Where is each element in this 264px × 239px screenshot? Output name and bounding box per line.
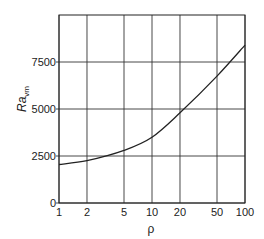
y-axis-tick-labels: 0250050007500 [32,56,56,209]
x-tick-label: 2 [84,206,90,218]
x-tick-label: 1 [56,206,62,218]
y-tick-label: 5000 [32,103,56,115]
y-tick-label: 7500 [32,56,56,68]
x-tick-label: 50 [211,206,223,218]
x-axis-title: ρ [148,222,155,236]
grid-lines [56,15,245,203]
x-tick-label: 100 [236,206,254,218]
x-tick-label: 20 [174,206,186,218]
y-tick-label: 0 [50,197,56,209]
x-axis-tick-labels: 125102050100 [56,206,254,218]
x-tick-label: 5 [121,206,127,218]
y-tick-label: 2500 [32,150,56,162]
y-axis-title: Ravm [15,86,31,112]
svg-text:Ravm: Ravm [15,86,31,112]
line-chart: 125102050100 0250050007500 ρ Ravm [0,0,264,239]
x-tick-label: 10 [146,206,158,218]
